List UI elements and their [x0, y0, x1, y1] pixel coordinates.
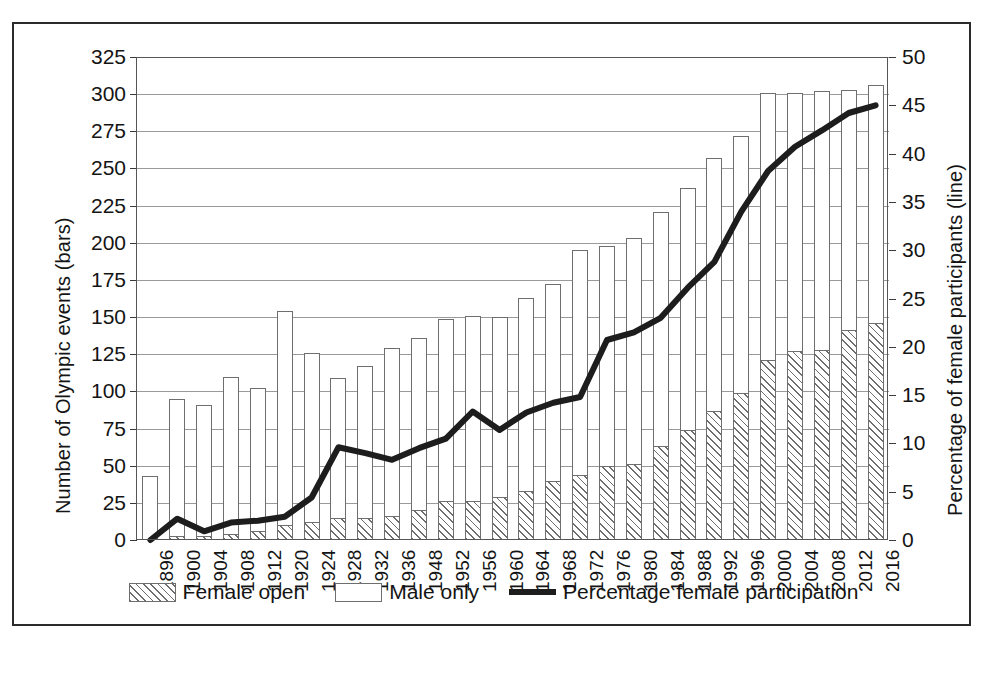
- axis-tick-right: [889, 299, 896, 300]
- legend-swatch-percentage-line: [509, 589, 556, 595]
- axis-tick-right: [889, 347, 896, 348]
- y-tick-label-left: 25: [70, 492, 126, 513]
- axis-tick-left: [130, 317, 137, 318]
- y-tick-label-left: 275: [70, 120, 126, 141]
- y-tick-label-left: 150: [70, 306, 126, 327]
- axis-tick-left: [130, 429, 137, 430]
- axis-tick-left: [130, 391, 137, 392]
- axis-tick-right: [889, 250, 896, 251]
- axis-tick-right: [889, 202, 896, 203]
- axis-tick-left: [130, 57, 137, 58]
- y-tick-label-right: 10: [902, 432, 958, 453]
- y-tick-label-right: 50: [902, 46, 958, 67]
- y-tick-label-right: 15: [902, 384, 958, 405]
- figure-frame: Number of Olympic events (bars) Percenta…: [12, 22, 971, 626]
- axis-tick-right: [889, 154, 896, 155]
- axis-tick-left: [130, 354, 137, 355]
- y-tick-label-left: 125: [70, 343, 126, 364]
- axis-tick-left: [130, 503, 137, 504]
- y-tick-label-right: 35: [902, 191, 958, 212]
- y-tick-label-right: 40: [902, 143, 958, 164]
- legend-item[interactable]: Female open: [129, 580, 306, 604]
- axis-tick-left: [130, 168, 137, 169]
- percentage-line-series: [137, 57, 889, 540]
- axis-tick-left: [130, 243, 137, 244]
- legend: Female openMale onlyPercentage female pa…: [14, 580, 973, 604]
- y-tick-label-right: 30: [902, 239, 958, 260]
- y-tick-label-right: 5: [902, 481, 958, 502]
- y-tick-label-left: 250: [70, 157, 126, 178]
- axis-tick-left: [130, 131, 137, 132]
- axis-tick-right: [889, 57, 896, 58]
- y-tick-label-left: 50: [70, 455, 126, 476]
- legend-label: Percentage female participation: [563, 580, 858, 604]
- axis-tick-left: [130, 540, 137, 541]
- y-tick-label-right: 20: [902, 336, 958, 357]
- y-tick-label-right: 0: [902, 529, 958, 550]
- legend-item[interactable]: Percentage female participation: [509, 580, 858, 604]
- y-tick-label-left: 75: [70, 418, 126, 439]
- plot-area: [136, 57, 888, 540]
- y-tick-label-left: 175: [70, 269, 126, 290]
- axis-tick-left: [130, 466, 137, 467]
- legend-swatch-female-open: [129, 583, 176, 602]
- axis-tick-right: [889, 492, 896, 493]
- axis-tick-right: [889, 395, 896, 396]
- axis-tick-right: [889, 443, 896, 444]
- legend-label: Female open: [183, 580, 306, 604]
- axis-tick-left: [130, 280, 137, 281]
- y-tick-label-right: 45: [902, 94, 958, 115]
- y-tick-label-left: 225: [70, 195, 126, 216]
- legend-item[interactable]: Male only: [335, 580, 479, 604]
- legend-swatch-male-only: [335, 583, 382, 602]
- y-tick-label-left: 0: [70, 529, 126, 550]
- y-tick-label-left: 325: [70, 46, 126, 67]
- axis-tick-right: [889, 540, 896, 541]
- y-tick-label-left: 200: [70, 232, 126, 253]
- y-tick-label-right: 25: [902, 288, 958, 309]
- legend-label: Male only: [389, 580, 479, 604]
- axis-tick-right: [889, 105, 896, 106]
- y-tick-label-left: 100: [70, 380, 126, 401]
- axis-tick-left: [130, 206, 137, 207]
- y-tick-label-left: 300: [70, 83, 126, 104]
- axis-tick-left: [130, 94, 137, 95]
